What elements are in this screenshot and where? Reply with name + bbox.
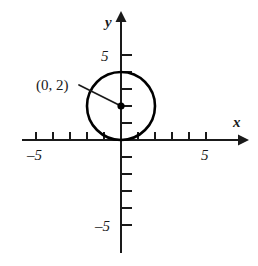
center-point-marker	[117, 102, 124, 109]
point-callout-label: (0, 2)	[36, 77, 69, 94]
y-tick-label-neg-5: –5	[94, 218, 111, 234]
y-tick-label-pos-5: 5	[101, 48, 109, 64]
y-axis-label: y	[103, 14, 112, 30]
y-axis-group	[116, 11, 127, 253]
x-axis-arrowhead	[238, 135, 249, 146]
x-tick-label-neg-5: –5	[26, 147, 43, 163]
x-axis-label: x	[232, 114, 241, 130]
figure-canvas: (0, 2) x y –5 5 5 –5	[0, 0, 258, 266]
callout-leader-line	[79, 85, 121, 106]
y-axis-arrowhead	[116, 11, 127, 22]
x-tick-label-pos-5: 5	[201, 147, 209, 163]
coordinate-plane-graph: (0, 2) x y –5 5 5 –5	[0, 0, 258, 266]
